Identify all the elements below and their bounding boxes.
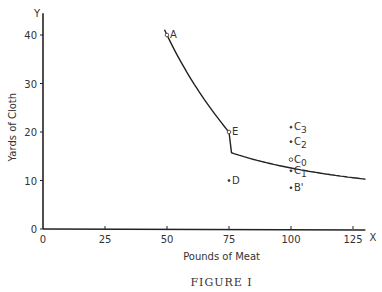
x-tick-label: 125	[343, 234, 362, 245]
point-c2	[290, 141, 292, 143]
y-tick-label: 0	[31, 224, 37, 235]
point-e	[227, 130, 231, 134]
point-bprime	[290, 187, 292, 189]
x-axis-letter: X	[369, 232, 376, 243]
point-label: D	[232, 175, 240, 186]
point-label: C2	[294, 136, 307, 150]
y-tick-label: 30	[24, 79, 37, 90]
point-a	[165, 33, 169, 37]
x-axis	[43, 229, 365, 230]
y-axis-label: Yards of Cloth	[7, 93, 18, 162]
x-axis-label: Pounds of Meat	[183, 251, 260, 262]
x-tick-label: 50	[161, 234, 174, 245]
y-axis-letter: Y	[33, 8, 41, 19]
x-tick-label: 0	[40, 234, 46, 245]
point-c0	[289, 158, 293, 162]
point-label: A	[170, 29, 177, 40]
point-d	[228, 180, 230, 182]
x-tick-label: 25	[99, 234, 112, 245]
y-tick-label: 20	[24, 127, 37, 138]
point-c1	[290, 170, 292, 172]
y-tick-label: 10	[24, 176, 37, 187]
point-label: E	[232, 126, 238, 137]
point-label: C3	[294, 121, 307, 135]
point-label: B'	[294, 182, 304, 193]
x-tick-label: 75	[223, 234, 236, 245]
point-c3	[290, 126, 292, 128]
chart: YX0102030400255075100125Pounds of MeatYa…	[0, 0, 382, 292]
x-tick-label: 100	[281, 234, 300, 245]
y-tick-label: 40	[24, 30, 37, 41]
indifference-curve	[165, 30, 366, 180]
figure-caption: FIGURE I	[190, 276, 252, 289]
